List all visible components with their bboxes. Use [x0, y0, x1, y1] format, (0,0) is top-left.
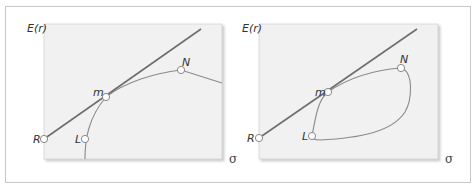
left-plot-area [44, 24, 222, 159]
left-point-N-label: N [182, 56, 190, 69]
left-point-L-label: L [75, 133, 81, 146]
left-point-m-label: m [93, 86, 104, 99]
left-point-R-label: R [33, 133, 41, 146]
right-panel: E(r) σ R L m N [242, 22, 453, 166]
figure-canvas: E(r) σ R L m N E(r) σ R L m N [0, 0, 476, 191]
left-panel: E(r) σ R L m N [27, 22, 237, 166]
right-x-axis-label: σ [445, 152, 453, 166]
right-point-L-label: L [302, 130, 308, 143]
right-y-axis-label: E(r) [242, 22, 262, 35]
right-point-R-marker [255, 134, 262, 141]
left-point-L-marker [81, 135, 88, 142]
left-y-axis-label: E(r) [27, 22, 47, 35]
right-point-L-marker [308, 132, 315, 139]
left-point-R-marker [40, 135, 47, 142]
left-x-axis-label: σ [229, 152, 237, 166]
right-point-m-label: m [315, 86, 326, 99]
right-point-R-label: R [247, 132, 255, 145]
right-plot-area [259, 24, 438, 159]
right-point-N-label: N [400, 53, 408, 66]
